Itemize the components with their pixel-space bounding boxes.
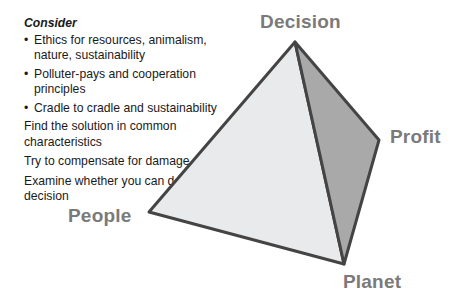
label-people: People [68,206,132,226]
pyramid-diagram [0,0,461,303]
label-profit: Profit [390,127,441,147]
label-decision: Decision [260,12,341,32]
label-planet: Planet [343,272,401,292]
